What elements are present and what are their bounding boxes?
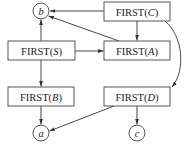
box-first-B: FIRST(B) bbox=[8, 87, 74, 106]
terminal-a: a bbox=[33, 125, 49, 141]
svg-text:c: c bbox=[135, 128, 140, 139]
terminal-b: b bbox=[33, 3, 49, 19]
svg-text:FIRST(B): FIRST(B) bbox=[20, 92, 63, 104]
svg-text:a: a bbox=[38, 128, 43, 139]
svg-text:FIRST(S): FIRST(S) bbox=[21, 46, 62, 58]
box-first-D: FIRST(D) bbox=[104, 87, 170, 106]
edges bbox=[41, 11, 181, 131]
diagram-canvas: FIRST(C) FIRST(S) FIRST(A) FIRST(B) FIRS… bbox=[0, 0, 185, 152]
edge-D-to-a bbox=[50, 106, 115, 131]
box-first-A: FIRST(A) bbox=[104, 41, 170, 60]
svg-text:FIRST(A): FIRST(A) bbox=[116, 46, 159, 58]
box-first-S: FIRST(S) bbox=[8, 41, 75, 60]
terminal-c: c bbox=[129, 125, 145, 141]
svg-text:FIRST(C): FIRST(C) bbox=[116, 7, 159, 19]
svg-text:FIRST(D): FIRST(D) bbox=[115, 92, 159, 104]
first-set-dependency-graph: FIRST(C) FIRST(S) FIRST(A) FIRST(B) FIRS… bbox=[0, 0, 185, 152]
box-first-C: FIRST(C) bbox=[104, 2, 170, 21]
svg-text:b: b bbox=[38, 6, 43, 17]
